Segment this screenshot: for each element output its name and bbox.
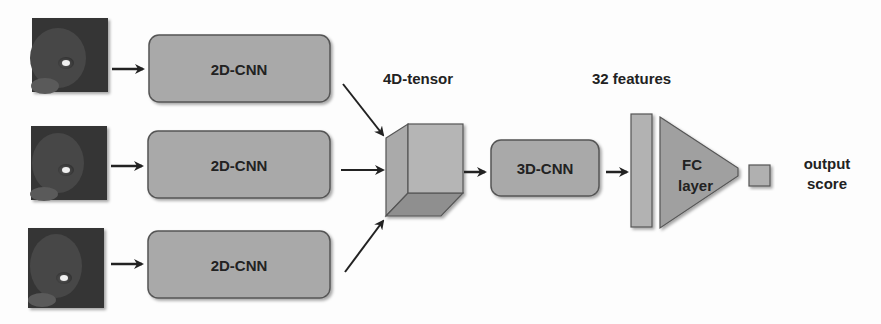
fc-label-line2: layer bbox=[678, 177, 713, 194]
input-image-1 bbox=[30, 18, 108, 94]
cnn2d-box-1: 2D-CNN bbox=[149, 35, 330, 102]
feature-vector-bar bbox=[631, 114, 652, 227]
output-label-line2: score bbox=[807, 175, 847, 192]
cnn3d-box: 3D-CNN bbox=[491, 140, 599, 196]
arrow-cnn3-to-tensor bbox=[345, 221, 383, 272]
cnn2d-box-3: 2D-CNN bbox=[148, 231, 330, 298]
fc-label-line1: FC bbox=[682, 156, 702, 173]
cnn2d-label-1: 2D-CNN bbox=[211, 61, 268, 78]
cnn-architecture-diagram: 2D-CNN 2D-CNN 2D-CNN 4D-tensor 3D-CNN 32… bbox=[0, 0, 881, 324]
cnn2d-box-2: 2D-CNN bbox=[148, 131, 330, 198]
output-label-line1: output bbox=[804, 155, 851, 172]
input-image-3 bbox=[28, 228, 104, 308]
cnn2d-label-2: 2D-CNN bbox=[211, 157, 268, 174]
output-score-box bbox=[749, 165, 770, 186]
input-image-2 bbox=[30, 126, 107, 201]
tensor-cube bbox=[386, 124, 463, 216]
cnn2d-label-3: 2D-CNN bbox=[211, 257, 268, 274]
tensor-label: 4D-tensor bbox=[383, 70, 453, 87]
fc-layer: FC layer bbox=[660, 117, 738, 228]
arrow-cnn1-to-tensor bbox=[343, 84, 383, 135]
cnn3d-label: 3D-CNN bbox=[517, 160, 574, 177]
features-label: 32 features bbox=[592, 70, 671, 87]
